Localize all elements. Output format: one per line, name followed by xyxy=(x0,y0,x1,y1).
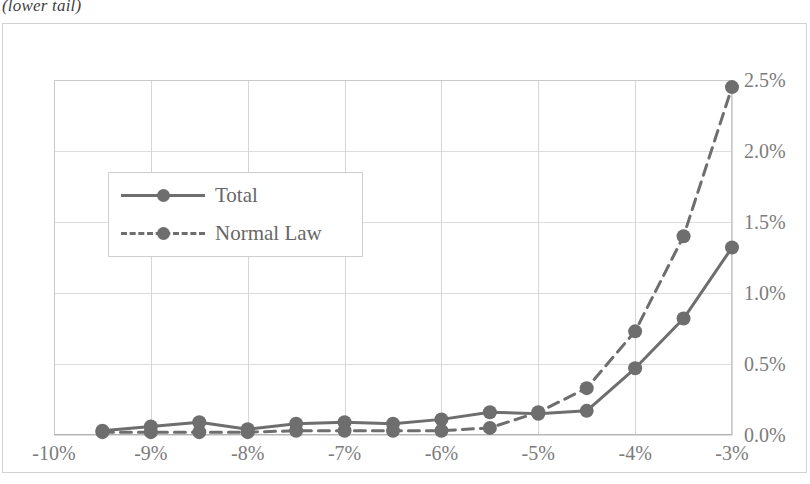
x-tick-label: -7% xyxy=(328,442,361,465)
chart-frame: 0.0%0.5%1.0%1.5%2.0%2.5% -10%-9%-8%-7%-6… xyxy=(2,23,807,473)
data-point-marker xyxy=(483,405,497,419)
data-point-marker xyxy=(289,424,303,438)
data-point-marker xyxy=(144,425,158,439)
series-normal-law xyxy=(95,80,739,439)
plot-area xyxy=(54,80,732,435)
legend-dashed-line-marker-icon xyxy=(121,226,205,240)
data-point-marker xyxy=(531,405,545,419)
gridline-vertical xyxy=(732,80,733,435)
series-total xyxy=(95,241,739,438)
y-tick-label: 1.0% xyxy=(744,282,786,305)
data-point-marker xyxy=(338,424,352,438)
legend-item-total[interactable]: Total xyxy=(121,183,258,207)
legend-label-normal-law: Normal Law xyxy=(215,221,322,246)
data-point-marker xyxy=(192,425,206,439)
chart-legend[interactable]: Total Normal Law xyxy=(108,172,363,257)
data-point-marker xyxy=(580,404,594,418)
x-tick-label: -4% xyxy=(618,442,651,465)
data-point-marker xyxy=(241,425,255,439)
data-point-marker xyxy=(386,424,400,438)
chart-root: (lower tail) 0.0%0.5%1.0%1.5%2.0%2.5% -1… xyxy=(0,0,810,484)
chart-caption: (lower tail) xyxy=(2,0,81,16)
data-point-marker xyxy=(95,425,109,439)
x-tick-label: -9% xyxy=(134,442,167,465)
data-point-marker xyxy=(483,421,497,435)
series-line xyxy=(102,87,732,432)
series-line xyxy=(102,248,732,431)
x-tick-label: -8% xyxy=(231,442,264,465)
legend-line-marker-icon xyxy=(121,188,205,202)
y-tick-label: 2.0% xyxy=(744,140,786,163)
data-point-marker xyxy=(725,241,739,255)
data-point-marker xyxy=(677,229,691,243)
data-point-marker xyxy=(628,324,642,338)
y-tick-label: 2.5% xyxy=(744,69,786,92)
y-tick-label: 0.0% xyxy=(744,424,786,447)
data-point-marker xyxy=(434,424,448,438)
data-point-marker xyxy=(580,381,594,395)
data-point-marker xyxy=(677,312,691,326)
y-tick-label: 0.5% xyxy=(744,353,786,376)
x-tick-label: -10% xyxy=(32,442,75,465)
series-layer xyxy=(54,80,732,435)
data-point-marker xyxy=(628,361,642,375)
legend-label-total: Total xyxy=(215,183,258,208)
legend-item-normal-law[interactable]: Normal Law xyxy=(121,221,322,245)
x-tick-label: -5% xyxy=(522,442,555,465)
x-tick-label: -6% xyxy=(425,442,458,465)
y-tick-label: 1.5% xyxy=(744,211,786,234)
x-tick-label: -3% xyxy=(715,442,748,465)
data-point-marker xyxy=(725,80,739,94)
